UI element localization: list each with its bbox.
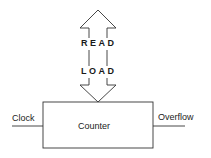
overflow-label: Overflow bbox=[158, 113, 194, 122]
load-label: LOAD bbox=[81, 67, 117, 76]
diagram-canvas bbox=[0, 0, 211, 158]
counter-label: Counter bbox=[78, 122, 110, 131]
clock-label: Clock bbox=[12, 114, 35, 123]
read-label: READ bbox=[81, 39, 117, 48]
bidirectional-bus-arrow bbox=[80, 10, 116, 102]
